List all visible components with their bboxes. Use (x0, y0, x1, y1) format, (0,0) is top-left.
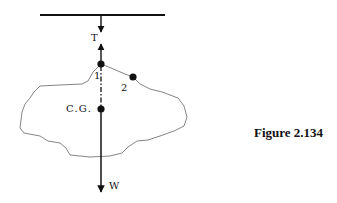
point-1-marker (97, 60, 104, 67)
weight-label: W (109, 180, 120, 191)
free-body-diagram: T 1 2 C.G. W (0, 0, 337, 203)
center-of-gravity-label: C.G. (66, 103, 92, 114)
point-2-label: 2 (121, 82, 127, 93)
point-1-label: 1 (94, 70, 100, 81)
figure-caption: Figure 2.134 (254, 125, 323, 141)
point-2-marker (129, 73, 136, 80)
tension-label: T (91, 32, 98, 43)
